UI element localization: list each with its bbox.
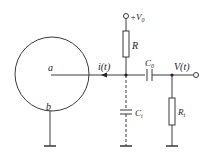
label-node-b: b [46, 101, 51, 112]
label-capacitor-ci: Ci [135, 108, 143, 119]
label-resistor-r: R [131, 40, 138, 51]
label-capacitor-c0: C0 [145, 58, 154, 69]
resistor-r [123, 31, 129, 57]
circuit-diagram: a b i(t) +V0 R C0 V(t) Ci Ri [0, 0, 212, 162]
label-current: i(t) [98, 61, 111, 73]
label-resistor-ri: Ri [177, 107, 186, 118]
supply-terminal [124, 14, 129, 19]
output-node [170, 73, 173, 76]
output-terminal [194, 73, 199, 78]
detector-circle [15, 37, 89, 111]
label-supply: +V0 [130, 12, 145, 23]
current-arrow-icon [101, 73, 107, 78]
resistor-ri [169, 98, 175, 125]
label-node-a: a [48, 62, 53, 73]
label-output-voltage: V(t) [174, 61, 190, 73]
junction-node [124, 73, 127, 76]
